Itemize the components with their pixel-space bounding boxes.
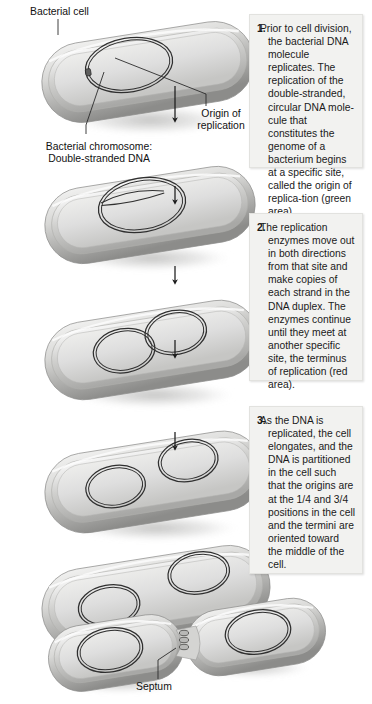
chromosome-stage-6-right	[222, 605, 295, 660]
septum-structure	[176, 626, 200, 660]
chromosome-stage-5	[72, 547, 236, 632]
label-origin-of-replication: Origin of replication	[183, 108, 259, 133]
chromosome-stage-3	[88, 305, 211, 377]
cell-stage-3	[39, 295, 265, 409]
cell-stage-4	[39, 425, 269, 542]
chromosome-stage-6-left	[74, 623, 147, 678]
caption-panel-1-body: Prior to cell division, the bacterial DN…	[260, 23, 354, 217]
leader-septum	[158, 648, 176, 679]
leader-chromosome	[86, 72, 104, 134]
cell-stage-6	[44, 593, 331, 696]
figure-canvas: Bacterial cell Origin of replication Bac…	[0, 0, 372, 704]
caption-panel-2-body: The replication enzymes move out in both…	[260, 222, 354, 390]
caption-panel-3-body: As the DNA is replicated, the cell elong…	[260, 415, 355, 570]
leader-origin	[115, 58, 206, 106]
caption-panel-3: 3.As the DNA is replicated, the cell elo…	[249, 406, 363, 574]
label-bacterial-chromosome: Bacterial chromosome: Double-stranded DN…	[24, 141, 174, 166]
caption-panel-2: 2.The replication enzymes move out in bo…	[249, 213, 363, 381]
caption-panel-1: 1.Prior to cell division, the bacterial …	[249, 14, 363, 168]
chromosome-stage-2	[94, 171, 190, 239]
cell-stage-5	[36, 540, 276, 659]
cell-stage-2	[39, 161, 260, 272]
label-bacterial-cell: Bacterial cell	[30, 6, 89, 18]
caption-panel-2-text: 2.The replication enzymes move out in bo…	[257, 221, 355, 391]
caption-panel-1-text: 1.Prior to cell division, the bacterial …	[257, 22, 355, 218]
chromosome-stage-1	[81, 31, 177, 99]
caption-panel-3-text: 3.As the DNA is replicated, the cell elo…	[257, 414, 355, 571]
chromosome-stage-4	[80, 435, 223, 513]
label-septum: Septum	[136, 681, 172, 693]
